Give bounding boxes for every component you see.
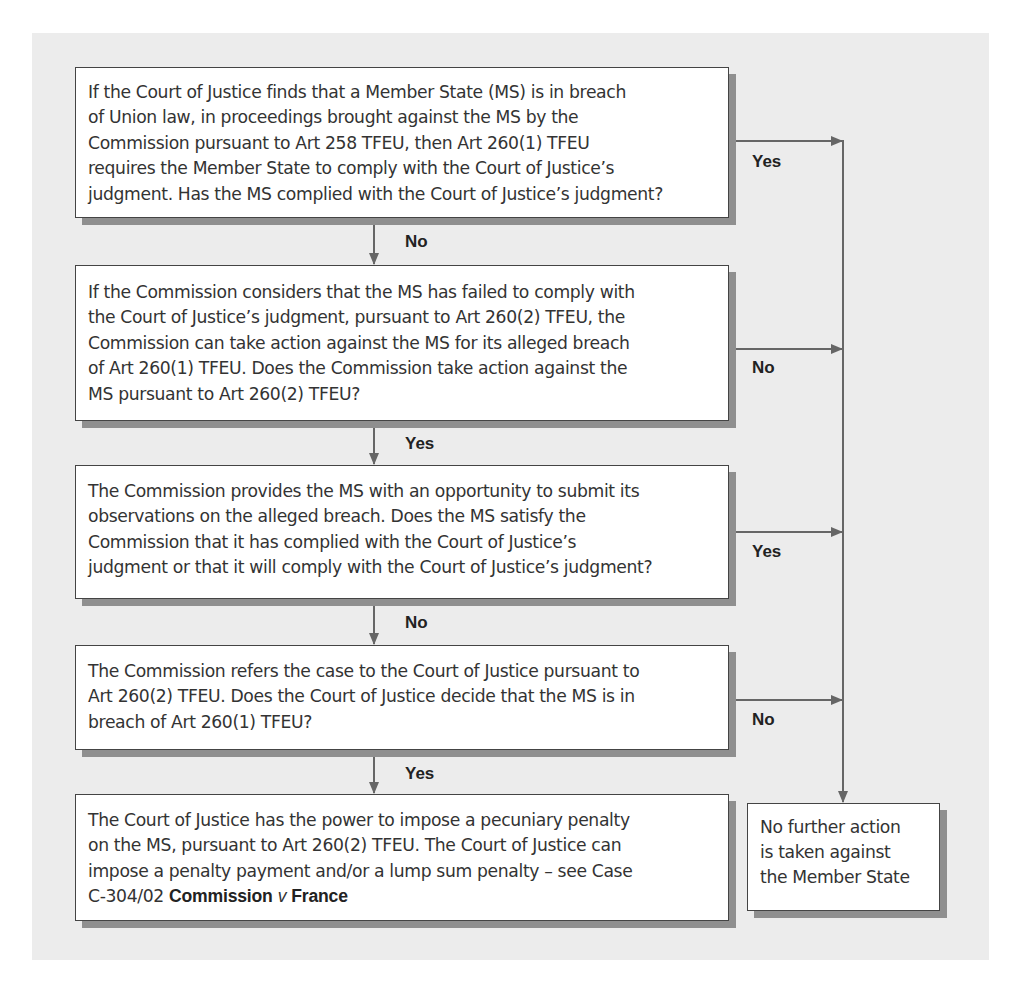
step-4-line-1: The Commission refers the case to the Co… <box>88 659 716 684</box>
step-4-down-label: Yes <box>405 764 434 784</box>
step-3-side-label: Yes <box>752 542 781 562</box>
step-2-line-2: the Court of Justice’s judgment, pursuan… <box>88 305 716 330</box>
step-1-line-4: requires the Member State to comply with… <box>88 156 716 181</box>
case-party-1: Commission <box>169 886 273 906</box>
no-further-action-box: No further action is taken against the M… <box>747 803 940 911</box>
step-3-line-2: observations on the alleged breach. Does… <box>88 504 716 529</box>
terminal-line-2: is taken against <box>760 840 927 865</box>
step-4-side-label: No <box>752 710 775 730</box>
step-5-line-3: impose a penalty payment and/or a lump s… <box>88 859 716 884</box>
step-2-line-5: MS pursuant to Art 260(2) TFEU? <box>88 382 716 407</box>
flow-step-4-box: The Commission refers the case to the Co… <box>75 645 729 750</box>
flow-step-2-box: If the Commission considers that the MS … <box>75 265 729 421</box>
step-5-line-1: The Court of Justice has the power to im… <box>88 808 716 833</box>
step-4-line-3: breach of Art 260(1) TFEU? <box>88 710 716 735</box>
step-3-line-4: judgment or that it will comply with the… <box>88 555 716 580</box>
step-2-line-1: If the Commission considers that the MS … <box>88 280 716 305</box>
step-1-line-2: of Union law, in proceedings brought aga… <box>88 105 716 130</box>
step-2-side-label: No <box>752 358 775 378</box>
terminal-line-3: the Member State <box>760 865 927 890</box>
step-2-line-4: of Art 260(1) TFEU. Does the Commission … <box>88 356 716 381</box>
case-versus: v <box>278 886 286 906</box>
step-3-line-3: Commission that it has complied with the… <box>88 530 716 555</box>
step-1-line-1: If the Court of Justice finds that a Mem… <box>88 80 716 105</box>
step-1-line-3: Commission pursuant to Art 258 TFEU, the… <box>88 131 716 156</box>
case-party-2: France <box>291 886 348 906</box>
flow-step-3-box: The Commission provides the MS with an o… <box>75 465 729 599</box>
step-1-side-label: Yes <box>752 152 781 172</box>
step-1-down-label: No <box>405 232 428 252</box>
step-3-line-1: The Commission provides the MS with an o… <box>88 479 716 504</box>
flow-step-5-box: The Court of Justice has the power to im… <box>75 794 729 921</box>
step-5-line-4: C-304/02 Commission v France <box>88 884 716 909</box>
step-3-down-label: No <box>405 613 428 633</box>
step-2-down-label: Yes <box>405 434 434 454</box>
step-1-line-5: judgment. Has the MS complied with the C… <box>88 182 716 207</box>
case-number: C-304/02 <box>88 886 164 906</box>
terminal-line-1: No further action <box>760 815 927 840</box>
step-5-line-2: on the MS, pursuant to Art 260(2) TFEU. … <box>88 833 716 858</box>
step-2-line-3: Commission can take action against the M… <box>88 331 716 356</box>
flow-step-1-box: If the Court of Justice finds that a Mem… <box>75 67 729 218</box>
step-4-line-2: Art 260(2) TFEU. Does the Court of Justi… <box>88 684 716 709</box>
